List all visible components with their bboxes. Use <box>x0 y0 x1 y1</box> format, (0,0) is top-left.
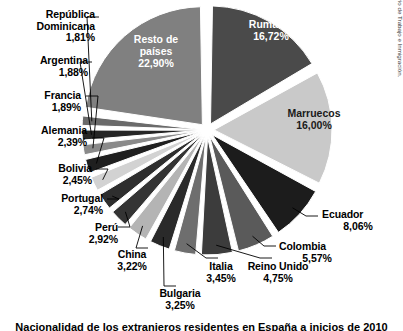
slice-label-colombia: Colombia 5,57% <box>279 241 355 264</box>
credit-line-1: © Cengage Learning. Fuente: Ministerio d… <box>396 0 403 86</box>
slice-name-portugal: Portugal <box>0 193 103 205</box>
slice-label-bulgaria: Bulgaria 3,25% <box>146 288 214 311</box>
slice-name-francia: Francia <box>0 90 81 102</box>
slice-value-francia: 1,89% <box>0 102 81 114</box>
slice-name-ecuador: Ecuador <box>322 209 394 221</box>
slice-value-marruecos: 16,00% <box>296 119 332 131</box>
slice-value-peru: 2,92% <box>20 234 118 246</box>
slice-label-bolivia: Bolivia 2,45% <box>0 163 92 186</box>
slice-label-peru: Perú 2,92% <box>20 222 118 245</box>
slice-name-rumania: Rumanía <box>249 18 293 30</box>
slice-value-bulgaria: 3,25% <box>146 300 214 312</box>
slice-value-republica-dominicana: 1,81% <box>0 32 95 44</box>
slice-name-marruecos: Marruecos <box>287 107 340 119</box>
slice-label-reino-unido: Reino Unido 4,75% <box>240 261 316 284</box>
slice-value-italia: 3,45% <box>196 273 246 285</box>
slice-value-rumania: 16,72% <box>253 30 289 42</box>
copyright-credit: © Cengage Learning. Fuente: Ministerio d… <box>389 0 403 86</box>
slice-value-resto-de-paises: 22,90% <box>138 57 174 69</box>
slice-name-china: China <box>104 249 160 261</box>
slice-name-peru: Perú <box>20 222 118 234</box>
slice-value-ecuador: 8,06% <box>322 221 394 233</box>
slice-label-argentina: Argentina 1,88% <box>0 55 88 78</box>
pie-chart-figure: Rumanía 16,72% Marruecos 16,00% Resto de… <box>0 0 403 331</box>
slice-label-resto-de-paises: Resto de países 22,90% <box>110 33 202 69</box>
slice-name-resto-de-paises-line2: países <box>140 45 173 57</box>
slice-name-colombia: Colombia <box>279 241 355 253</box>
slice-label-italia: Italia 3,45% <box>196 261 246 284</box>
slice-label-alemania: Alemania 2,39% <box>0 125 87 148</box>
slice-name-italia: Italia <box>196 261 246 273</box>
slice-label-ecuador: Ecuador 8,06% <box>322 209 394 232</box>
slice-name-argentina: Argentina <box>0 55 88 67</box>
slice-label-portugal: Portugal 2,74% <box>0 193 103 216</box>
figure-caption: Nacionalidad de los extranjeros resident… <box>0 321 403 331</box>
credit-line-2: Gobierno de España, 2010 <box>389 0 397 86</box>
slice-value-alemania: 2,39% <box>0 137 87 149</box>
slice-label-republica-dominicana: República Dominicana 1,81% <box>0 9 95 44</box>
slice-value-colombia: 5,57% <box>279 253 355 265</box>
slice-name-bolivia: Bolivia <box>0 163 92 175</box>
slice-name-republica-dominicana-line1: República <box>0 9 95 21</box>
slice-value-china: 3,22% <box>104 261 160 273</box>
slice-name-bulgaria: Bulgaria <box>146 288 214 300</box>
slice-label-marruecos: Marruecos 16,00% <box>262 107 366 131</box>
slice-name-alemania: Alemania <box>0 125 87 137</box>
slice-label-francia: Francia 1,89% <box>0 90 81 113</box>
slice-value-argentina: 1,88% <box>0 67 88 79</box>
slice-value-reino-unido: 4,75% <box>240 273 316 285</box>
slice-value-portugal: 2,74% <box>0 205 103 217</box>
slice-name-resto-de-paises-line1: Resto de <box>134 33 178 45</box>
slice-value-bolivia: 2,45% <box>0 175 92 187</box>
slice-label-rumania: Rumanía 16,72% <box>228 18 314 42</box>
slice-label-china: China 3,22% <box>104 249 160 272</box>
